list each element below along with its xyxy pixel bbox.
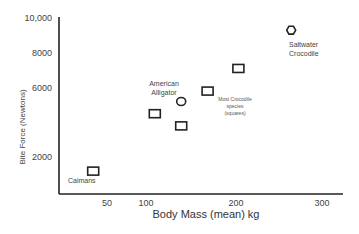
annotation-most-croc-line-1: Most Crocodile bbox=[218, 96, 252, 102]
data-point-saltwater-crocodile bbox=[287, 26, 296, 34]
annotation-alligator-line-2: Alligator bbox=[151, 89, 177, 97]
annotation-alligator-line-1: American bbox=[149, 80, 179, 87]
y-tick-label: 2000 bbox=[32, 152, 52, 162]
annotation-american-alligator: American Alligator bbox=[149, 80, 179, 97]
annotation-saltwater-line-2: Crocodile bbox=[289, 50, 319, 57]
x-axis-title: Body Mass (mean) kg bbox=[153, 208, 260, 220]
x-tick-label: 300 bbox=[314, 198, 329, 208]
y-tick-label: 6000 bbox=[32, 83, 52, 93]
y-tick-label: 10,000 bbox=[24, 13, 52, 23]
y-axis-title: Bite Force (Newtons) bbox=[18, 89, 27, 164]
annotation-most-crocodile: Most Crocodile species (squares) bbox=[218, 96, 252, 116]
data-point-crocodile-species-a bbox=[149, 110, 160, 118]
x-tick-label: 200 bbox=[228, 198, 243, 208]
data-point-american-alligator bbox=[177, 98, 186, 106]
data-point-crocodile-species-c bbox=[202, 87, 213, 95]
annotation-saltwater-line-1: Saltwater bbox=[289, 41, 319, 48]
y-tick-label: 8000 bbox=[32, 48, 52, 58]
data-point-crocodile-species-d bbox=[233, 64, 244, 72]
data-point-caimans bbox=[88, 167, 99, 175]
annotation-most-croc-line-3: (squares) bbox=[224, 110, 245, 116]
annotation-saltwater-crocodile: Saltwater Crocodile bbox=[289, 41, 319, 57]
annotation-caimans-line-1: Caimans bbox=[68, 177, 96, 184]
annotation-most-croc-line-2: species bbox=[227, 103, 244, 109]
x-tick-label: 50 bbox=[102, 198, 112, 208]
annotation-caimans: Caimans bbox=[68, 177, 96, 184]
x-tick-label: 100 bbox=[138, 198, 153, 208]
scatter-chart: 20006000800010,000 50100200300 Bite Forc… bbox=[0, 0, 359, 234]
data-point-crocodile-species-b bbox=[176, 122, 187, 130]
